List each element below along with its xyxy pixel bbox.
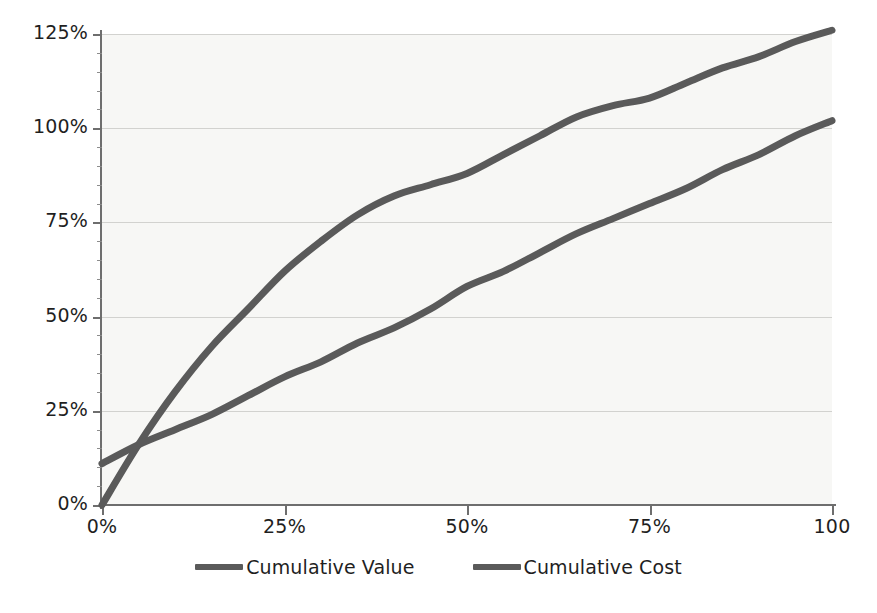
legend-item[interactable]: Cumulative Cost [473, 556, 682, 578]
legend-label: Cumulative Value [246, 556, 414, 578]
chart-legend: Cumulative ValueCumulative Cost [0, 556, 877, 578]
legend-item[interactable]: Cumulative Value [195, 556, 414, 578]
series-line [102, 30, 832, 505]
chart-container: 125%100%75%50%25%0% 0%25%50%75%100 Cumul… [0, 0, 877, 613]
series-lines [0, 0, 877, 613]
legend-label: Cumulative Cost [524, 556, 682, 578]
legend-swatch-icon [473, 564, 521, 570]
legend-swatch-icon [195, 564, 243, 570]
